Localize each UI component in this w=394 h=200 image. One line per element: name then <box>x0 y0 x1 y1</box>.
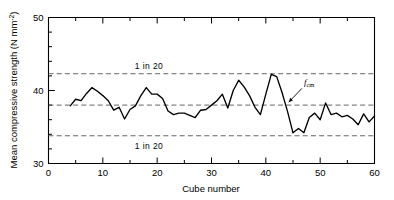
x-tick-labels: 0102030405060 <box>46 167 380 178</box>
x-tick-label: 30 <box>206 167 217 178</box>
y-tick-labels: 304050 <box>33 12 44 169</box>
mean-compressive-strength-line-chart: 304050 0102030405060 1 in 201 in 20 fcm … <box>0 0 394 200</box>
fcm-annotation-group <box>289 88 302 102</box>
y-axis-ticks <box>49 18 55 164</box>
x-axis-title: Cube number <box>182 183 240 194</box>
x-tick-label: 40 <box>261 167 272 178</box>
y-tick-label: 30 <box>33 158 44 169</box>
x-tick-label: 60 <box>369 167 380 178</box>
x-tick-label: 0 <box>46 167 51 178</box>
x-tick-label: 10 <box>98 167 109 178</box>
reference-line-labels: 1 in 201 in 20 <box>135 61 163 151</box>
y-tick-label: 50 <box>33 12 44 23</box>
reference-line-label-lower-1-in-20: 1 in 20 <box>135 141 163 151</box>
y-tick-label: 40 <box>33 85 44 96</box>
data-series-group <box>70 74 374 132</box>
fcm-label: fcm <box>304 77 314 88</box>
data-line-mean-compressive-strength <box>70 74 374 132</box>
x-tick-label: 20 <box>152 167 163 178</box>
chart-figure: 304050 0102030405060 1 in 201 in 20 fcm … <box>0 0 394 200</box>
x-tick-label: 50 <box>315 167 326 178</box>
y-axis-title: Mean compressive strength (N mm-2) <box>8 11 20 168</box>
reference-line-label-upper-1-in-20: 1 in 20 <box>135 61 163 71</box>
